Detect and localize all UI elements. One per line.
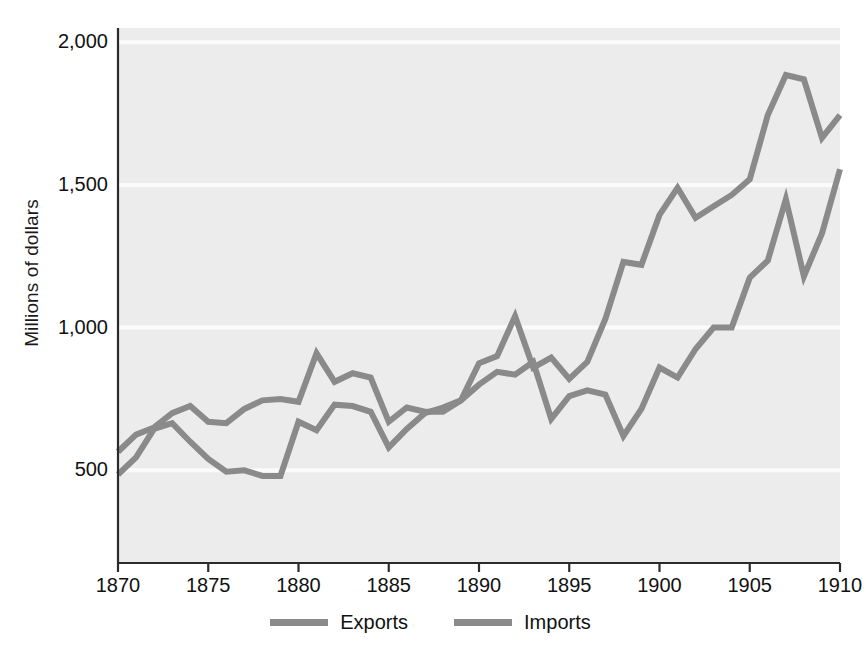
x-tick-label-1885: 1885 [344,575,434,595]
legend-label: Imports [524,612,591,632]
legend-item-imports[interactable]: Imports [454,612,591,632]
legend-label: Exports [340,612,408,632]
y-tick-label-2000: 2,000 [30,31,108,51]
x-tick-label-1880: 1880 [254,575,344,595]
y-tick-label-1500: 1,500 [30,174,108,194]
x-tick-label-1905: 1905 [705,575,795,595]
chart-legend: ExportsImports [0,612,861,632]
x-tick-label-1910: 1910 [795,575,866,595]
x-axis-tick-labels: 187018751880188518901895190019051910 [0,563,861,603]
x-tick-label-1895: 1895 [524,575,614,595]
legend-line-swatch-icon [270,619,328,626]
y-tick-label-500: 500 [30,459,108,479]
plot-background [118,28,840,563]
x-tick-label-1900: 1900 [615,575,705,595]
y-tick-label-1000: 1,000 [30,317,108,337]
x-tick-label-1890: 1890 [434,575,524,595]
y-axis-tick-labels: 2,0001,5001,000500 [22,0,108,580]
legend-line-swatch-icon [454,619,512,626]
x-tick-label-1870: 1870 [73,575,163,595]
x-tick-label-1875: 1875 [163,575,253,595]
legend-item-exports[interactable]: Exports [270,612,408,632]
